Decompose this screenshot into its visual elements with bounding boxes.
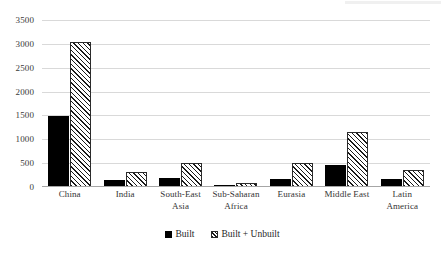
bar-built-unbuilt — [70, 42, 91, 187]
bar-chart: 3500 3000 2500 2000 1500 1000 500 0 — [0, 0, 445, 254]
legend-swatch-icon — [211, 231, 218, 238]
bar-built-unbuilt — [292, 163, 313, 187]
x-category-label: Latin America — [375, 189, 430, 212]
y-tick-label: 500 — [20, 159, 34, 168]
bar-built — [48, 116, 69, 187]
bar-group-eurasia — [264, 20, 319, 187]
x-category-line1: China — [59, 189, 81, 199]
bar-built-unbuilt — [126, 172, 147, 187]
x-category-label: India — [97, 189, 152, 212]
scan-artifact — [345, 1, 441, 4]
y-tick-label: 2000 — [16, 87, 34, 96]
x-category-line1: Middle East — [324, 189, 369, 199]
legend-swatch-icon — [165, 231, 172, 238]
y-tick-label: 3500 — [16, 16, 34, 25]
x-category-label: South-East Asia — [153, 189, 208, 212]
y-tick-label: 1500 — [16, 111, 34, 120]
x-category-line2: America — [375, 201, 430, 213]
legend-label: Built + Unbuilt — [221, 229, 279, 239]
legend-entry-built: Built — [165, 229, 194, 239]
bar-built — [325, 165, 346, 187]
bar-group-south-east-asia — [153, 20, 208, 187]
x-axis-line — [42, 186, 430, 187]
bar-built-unbuilt — [403, 170, 424, 187]
x-category-line1: Sub-Saharan — [212, 189, 259, 199]
y-tick-label: 1000 — [16, 135, 34, 144]
bar-group-sub-saharan-africa — [208, 20, 263, 187]
y-tick-label: 2500 — [16, 63, 34, 72]
bar-group-latin-america — [375, 20, 430, 187]
x-category-line1: Eurasia — [278, 189, 306, 199]
legend: Built Built + Unbuilt — [0, 229, 445, 239]
legend-entry-built-unbuilt: Built + Unbuilt — [211, 229, 279, 239]
x-category-label: Sub-Saharan Africa — [208, 189, 263, 212]
plot-area — [42, 20, 430, 187]
bar-built-unbuilt — [181, 163, 202, 187]
x-axis: China India South-East Asia Sub-Saharan … — [42, 189, 430, 212]
x-category-line2: Asia — [153, 201, 208, 213]
x-category-line1: India — [116, 189, 135, 199]
bar-group-china — [42, 20, 97, 187]
x-category-line1: Latin — [392, 189, 412, 199]
x-category-label: China — [42, 189, 97, 212]
y-tick-label: 3000 — [16, 39, 34, 48]
bar-groups — [42, 20, 430, 187]
legend-label: Built — [175, 229, 194, 239]
y-axis: 3500 3000 2500 2000 1500 1000 500 0 — [0, 20, 38, 187]
x-category-line2: Africa — [208, 201, 263, 213]
bar-group-india — [97, 20, 152, 187]
y-tick-label: 0 — [29, 183, 34, 192]
x-category-label: Middle East — [319, 189, 374, 212]
bar-built-unbuilt — [347, 132, 368, 187]
x-category-label: Eurasia — [264, 189, 319, 212]
bar-group-middle-east — [319, 20, 374, 187]
x-category-line1: South-East — [160, 189, 201, 199]
